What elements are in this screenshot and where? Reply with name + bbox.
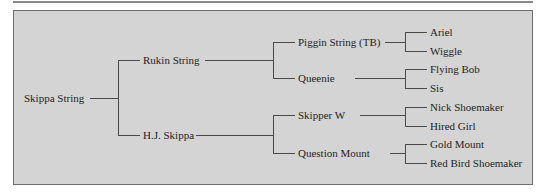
sire-sire-name: Piggin String (TB) — [296, 36, 383, 49]
sire-dam-sire-name: Flying Bob — [428, 63, 482, 76]
dam-dam-name: Question Mount — [296, 147, 372, 160]
dam-dam-dam-name: Red Bird Shoemaker — [428, 157, 524, 170]
subject-name: Skippa String — [22, 92, 86, 105]
dam-sire-sire-name: Nick Shoemaker — [428, 101, 506, 114]
dam-name: H.J. Skippa — [141, 129, 196, 142]
sire-sire-dam-name: Wiggle — [428, 45, 464, 58]
dam-sire-name: Skipper W — [296, 109, 347, 122]
sire-dam-dam-name: Sis — [428, 82, 445, 95]
sire-dam-name: Queenie — [296, 72, 337, 85]
dam-sire-dam-name: Hired Girl — [428, 120, 478, 133]
sire-sire-sire-name: Ariel — [428, 26, 455, 39]
dam-dam-sire-name: Gold Mount — [428, 138, 486, 151]
sire-name: Rukin String — [141, 54, 202, 67]
